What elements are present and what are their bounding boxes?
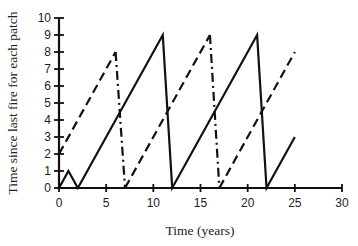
x-tick-label: 25: [288, 196, 302, 210]
y-tick-label: 5: [44, 96, 51, 110]
x-tick-label: 15: [194, 196, 208, 210]
y-tick-label: 0: [44, 181, 51, 195]
y-tick-label: 7: [44, 62, 51, 76]
y-tick-label: 3: [44, 130, 51, 144]
x-tick-label: 30: [335, 196, 349, 210]
series-line-dashed: [125, 35, 210, 188]
series-line-dashed: [59, 52, 116, 154]
series-line-dashed: [219, 52, 294, 188]
y-tick-label: 6: [44, 79, 51, 93]
series-line-solid: [59, 35, 295, 188]
chart: 051015202530012345678910 Time (years) Ti…: [0, 0, 358, 246]
y-tick-label: 1: [44, 164, 51, 178]
x-tick-label: 5: [103, 196, 110, 210]
y-tick-label: 9: [44, 28, 51, 42]
y-axis-title: Time since last fire for each patch: [5, 11, 20, 194]
series-line-dashdot: [210, 35, 219, 188]
y-tick-label: 10: [38, 11, 52, 25]
y-tick-label: 4: [44, 113, 51, 127]
x-tick-label: 0: [56, 196, 63, 210]
x-tick-label: 10: [147, 196, 161, 210]
y-tick-label: 2: [44, 147, 51, 161]
series-line-dashdot: [116, 52, 125, 188]
x-tick-label: 20: [241, 196, 255, 210]
x-axis-title: Time (years): [166, 223, 235, 238]
y-tick-label: 8: [44, 45, 51, 59]
series: [59, 35, 295, 188]
